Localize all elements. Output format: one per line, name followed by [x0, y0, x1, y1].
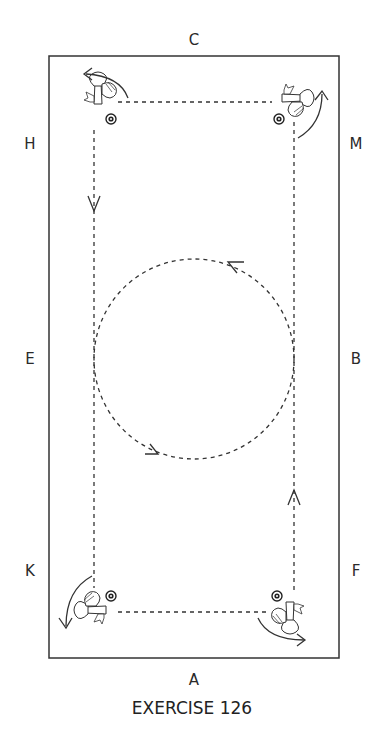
marker-icon — [106, 114, 116, 124]
marker-icon — [106, 591, 116, 601]
letter-f: F — [352, 564, 361, 579]
letter-h: H — [24, 137, 35, 152]
marker-icon — [272, 591, 282, 601]
letter-b: B — [351, 352, 361, 367]
arena-diagram — [0, 0, 384, 737]
track-path — [94, 102, 294, 612]
letter-c: C — [189, 33, 199, 48]
circle-path — [94, 259, 294, 459]
arena-boundary — [49, 56, 339, 658]
letter-a: A — [189, 673, 199, 688]
horse-icon — [84, 72, 116, 104]
marker-icon — [274, 114, 284, 124]
letter-e: E — [25, 352, 34, 367]
letter-m: M — [350, 137, 363, 152]
letter-k: K — [25, 564, 35, 579]
horse-icon — [272, 602, 304, 634]
horse-icon — [74, 592, 106, 624]
horse-icon — [282, 84, 314, 116]
exercise-caption: EXERCISE 126 — [0, 698, 384, 718]
